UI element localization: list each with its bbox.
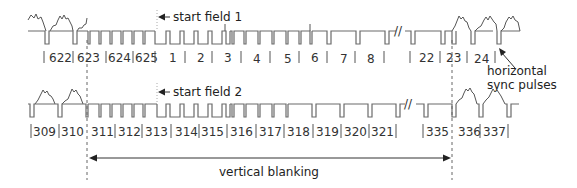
line-number: 309 [33,125,56,139]
line-number: 317 [259,125,282,139]
line-number: 624 [108,51,131,65]
line-number: 337 [483,125,506,139]
arrow-left-icon [158,89,165,96]
start-field1-marker: start field 1 [157,10,310,31]
line-number: 1 [169,51,177,65]
line-number: 3 [224,51,232,65]
line-number: 4 [253,52,261,66]
line-number: 7 [340,52,348,66]
field1-line-numbers: 622 623 624 625 1 2 3 4 5 6 7 8 22 23 24 [44,51,495,66]
line-number: 310 [61,125,84,139]
break-mark-field2: // [404,97,413,111]
line-number: 315 [201,125,224,139]
vertical-blanking-label: vertical blanking [219,165,319,179]
line-number: 6 [311,51,319,65]
arrow-right-icon [443,155,451,162]
line-number: 336 [458,125,481,139]
line-number: 316 [230,125,253,139]
vertical-blanking-span: vertical blanking [89,155,451,180]
start-field2-marker: start field 2 [157,83,242,104]
arrow-left-icon [89,155,97,162]
line-number: 319 [316,125,339,139]
field2-waveform: // [28,88,519,117]
line-number: 22 [419,51,434,65]
line-number: 321 [371,125,394,139]
line-number: 318 [287,125,310,139]
line-number: 314 [175,125,198,139]
field2-line-numbers: 309 310 311 312 313 314 315 316 317 318 … [31,124,508,139]
line-number: 313 [145,125,168,139]
hsync-label-line1: horizontal [487,64,547,78]
line-number: 335 [426,125,449,139]
line-number: 8 [367,52,375,66]
line-number: 5 [284,52,292,66]
line-number: 623 [77,51,100,65]
line-number: 23 [446,51,461,65]
line-number: 311 [91,125,114,139]
field1-waveform: // [28,14,520,44]
line-number: 312 [118,125,141,139]
line-number: 320 [344,125,367,139]
start-field1-label: start field 1 [173,10,242,24]
arrow-left-icon [158,14,165,21]
arrow-icon [499,48,506,56]
line-number: 2 [197,51,205,65]
line-number: 622 [49,51,72,65]
hsync-annotation: horizontal sync pulses [487,48,557,92]
start-field2-label: start field 2 [173,85,242,99]
break-mark-field1: // [394,24,403,38]
line-number: 625 [135,51,158,65]
video-sync-timing-diagram: // start field 1 622 623 624 625 1 2 3 [0,0,577,188]
